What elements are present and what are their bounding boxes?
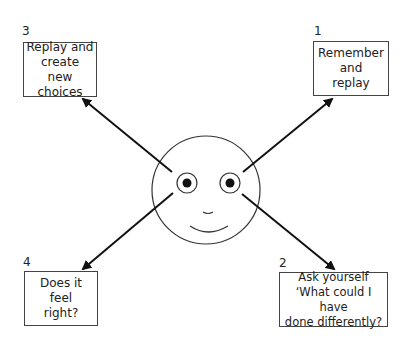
step-4-line-1: Does it bbox=[40, 276, 82, 291]
step-1-line-1: Remember bbox=[318, 46, 384, 61]
step-3-line-1: Replay and bbox=[27, 40, 94, 55]
step-4-line-3: right? bbox=[44, 306, 79, 321]
smiley-face-icon bbox=[152, 136, 260, 244]
step-2-line-1: Ask yourself bbox=[298, 270, 368, 285]
arrow-to-step-3 bbox=[83, 99, 172, 172]
arrow-to-step-4 bbox=[83, 193, 173, 269]
step-2-box: Ask yourself ‘What could I have done dif… bbox=[279, 272, 388, 327]
step-2-line-3: done differently? bbox=[285, 315, 382, 330]
step-3-line-3: new choices bbox=[24, 70, 96, 100]
cycle-diagram: 3 Replay and create new choices 1 Rememb… bbox=[0, 0, 410, 344]
step-2-number: 2 bbox=[279, 257, 287, 269]
step-4-line-2: feel bbox=[50, 291, 72, 306]
step-3-line-2: create bbox=[41, 55, 79, 70]
smile-icon bbox=[190, 226, 228, 232]
arrow-to-step-1 bbox=[243, 99, 332, 172]
step-1-box: Remember and replay bbox=[313, 41, 389, 96]
step-2-line-2: ‘What could I have bbox=[280, 285, 387, 315]
step-3-box: Replay and create new choices bbox=[23, 42, 97, 97]
step-1-line-2: and bbox=[340, 61, 363, 76]
step-1-number: 1 bbox=[314, 25, 322, 37]
arrow-to-step-2 bbox=[242, 194, 334, 269]
step-4-box: Does it feel right? bbox=[24, 271, 98, 326]
step-3-number: 3 bbox=[22, 25, 30, 37]
step-4-number: 4 bbox=[23, 256, 31, 268]
step-1-line-3: replay bbox=[332, 76, 369, 91]
nose-icon bbox=[203, 212, 213, 214]
